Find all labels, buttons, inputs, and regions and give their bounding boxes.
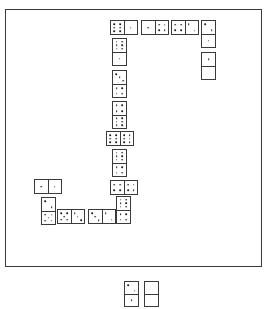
domino-tile-6-1[interactable] xyxy=(110,20,138,35)
pip-dot xyxy=(128,284,130,286)
pip-dot xyxy=(175,24,177,26)
pip-dot xyxy=(122,110,124,112)
domino-tile-6-4[interactable] xyxy=(116,196,131,224)
pip-dot xyxy=(51,214,53,216)
pip-dot xyxy=(116,44,118,46)
domino-half-first-1 xyxy=(142,21,156,34)
domino-half-second-4 xyxy=(113,85,126,98)
domino-half-first-4 xyxy=(172,21,186,34)
pip-dot xyxy=(115,134,117,136)
pip-dot xyxy=(115,141,117,143)
pip-dot xyxy=(114,23,116,25)
pip-dot xyxy=(54,186,56,188)
pip-dot xyxy=(164,30,166,32)
domino-tile-3-2[interactable] xyxy=(88,209,116,224)
pip-dot xyxy=(116,93,118,95)
pip-dot xyxy=(120,202,122,204)
pip-dot xyxy=(126,202,128,204)
pip-dot xyxy=(119,23,121,25)
pip-dot xyxy=(114,190,116,192)
pip-dot xyxy=(115,138,117,140)
domino-tile-6-4[interactable] xyxy=(112,149,127,177)
domino-tile-1-4[interactable] xyxy=(141,20,169,35)
domino-tile-4-4[interactable] xyxy=(110,180,138,195)
domino-tile-6-6[interactable] xyxy=(106,131,134,146)
pip-dot xyxy=(110,138,112,140)
domino-half-second-6 xyxy=(121,132,134,145)
pip-dot xyxy=(45,200,47,202)
pip-dot xyxy=(129,134,131,136)
domino-tile-1-1[interactable] xyxy=(34,179,62,194)
pip-dot xyxy=(158,30,160,32)
pip-dot xyxy=(122,105,124,107)
pip-dot xyxy=(119,27,121,29)
pip-dot xyxy=(116,105,118,107)
pip-dot xyxy=(134,290,136,292)
domino-tile-2-5[interactable] xyxy=(41,197,56,225)
pip-dot xyxy=(116,124,118,126)
domino-half-first-1 xyxy=(35,180,49,193)
pip-dot xyxy=(119,190,121,192)
pip-dot xyxy=(120,199,122,201)
domino-half-first-4 xyxy=(113,102,126,116)
pip-dot xyxy=(116,110,118,112)
domino-half-second-6 xyxy=(113,116,126,129)
pip-dot xyxy=(51,206,53,208)
pip-dot xyxy=(116,117,118,119)
pip-dot xyxy=(45,214,47,216)
domino-half-second-0 xyxy=(145,295,158,307)
pip-dot xyxy=(131,299,133,301)
pip-dot xyxy=(45,220,47,222)
pip-dot xyxy=(66,213,68,215)
pip-dot xyxy=(208,58,210,60)
domino-half-second-1 xyxy=(125,21,138,34)
pip-dot xyxy=(98,219,100,221)
domino-tile-1-0[interactable] xyxy=(201,52,216,80)
pip-dot xyxy=(120,206,122,208)
pip-dot xyxy=(211,29,213,31)
domino-tile-4-2[interactable] xyxy=(171,20,199,35)
pip-dot xyxy=(111,219,113,221)
pip-dot xyxy=(180,24,182,26)
pip-dot xyxy=(122,166,124,168)
pip-dot xyxy=(127,190,129,192)
domino-half-first-3 xyxy=(89,210,103,223)
domino-half-first-6 xyxy=(117,197,130,211)
domino-half-second-4 xyxy=(117,211,130,224)
pip-dot xyxy=(115,73,117,75)
domino-half-first-2 xyxy=(202,21,215,35)
pip-dot xyxy=(48,217,50,219)
pip-dot xyxy=(114,27,116,29)
domino-tile-0-0[interactable] xyxy=(144,281,159,307)
pip-dot xyxy=(122,48,124,50)
pip-dot xyxy=(122,172,124,174)
domino-half-second-4 xyxy=(156,21,169,34)
pip-dot xyxy=(119,184,121,186)
domino-half-second-2 xyxy=(186,21,199,34)
domino-tile-3-4[interactable] xyxy=(112,70,127,98)
domino-tile-2-1[interactable] xyxy=(124,281,139,307)
domino-half-first-6 xyxy=(113,150,126,164)
domino-half-first-3 xyxy=(113,71,126,85)
pip-dot xyxy=(77,216,79,218)
pip-dot xyxy=(80,219,82,221)
pip-dot xyxy=(94,216,96,218)
domino-tile-5-3[interactable] xyxy=(57,209,85,224)
pip-dot xyxy=(116,172,118,174)
domino-half-second-5 xyxy=(42,212,55,225)
pip-dot xyxy=(51,220,53,222)
pip-dot xyxy=(205,23,207,25)
domino-half-second-0 xyxy=(202,67,215,80)
domino-half-second-1 xyxy=(49,180,62,193)
pip-dot xyxy=(126,206,128,208)
domino-half-first-4 xyxy=(111,181,125,194)
pip-dot xyxy=(40,186,42,188)
domino-tile-4-6[interactable] xyxy=(112,101,127,129)
pip-dot xyxy=(180,30,182,32)
domino-tile-2-1[interactable] xyxy=(201,20,216,48)
domino-half-second-1 xyxy=(125,295,138,307)
pip-dot xyxy=(60,219,62,221)
domino-tile-6-1[interactable] xyxy=(112,38,127,66)
pip-dot xyxy=(164,24,166,26)
domino-half-first-1 xyxy=(202,53,215,67)
